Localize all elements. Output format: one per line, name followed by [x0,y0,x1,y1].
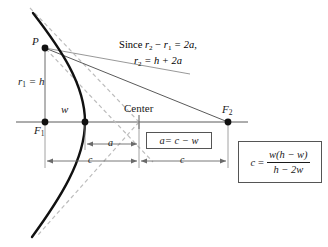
f1-subscript: 1 [41,129,45,138]
label-r1-equals-h: r1 = h [18,76,44,89]
box-a-rhs: = c − w [165,135,199,146]
box-c-lhs: c [250,157,255,168]
fraction-bar [267,162,310,163]
point-marker-f2 [225,119,232,126]
label-focus-f1: F1 [34,125,44,138]
note-line-1: Since r2 − r1 = 2a, [88,38,228,54]
box-c-equals: = [258,157,264,168]
note-relation: Since r2 − r1 = 2a, r2 = h + 2a [88,38,228,69]
note-minus: − [153,39,164,50]
point-marker-vertex [82,119,89,126]
box-c-numerator: w(h − w) [267,149,310,160]
f2-subscript: 2 [229,108,233,117]
label-dim-a: a [108,138,113,148]
label-focus-f2: F2 [222,104,232,117]
label-dim-c-left: c [88,155,92,165]
label-w: w [61,104,68,115]
boxed-equation-c: c=w(h − w)h − 2w [238,141,322,183]
label-center: Center [124,103,153,114]
label-dim-c-right: c [180,155,184,165]
box-c-denominator: h − 2w [271,164,305,175]
note2-rest: = h + 2a [142,55,182,66]
point-marker-p [42,45,49,52]
f1-base: F [34,124,41,136]
label-point-p: P [32,36,39,47]
box-c-fraction: w(h − w)h − 2w [267,149,310,174]
f2-base: F [222,103,229,115]
note-since: Since [119,39,145,50]
note-line-2: r2 = h + 2a [88,54,228,70]
boxed-equation-a: a = c − w [146,132,212,149]
note-eq-2a: = 2a, [171,39,196,50]
hyperbola-geometry-figure: P F1 F2 Center r1 = h w a c c Since r2 −… [0,0,328,247]
asymptote-lower-dashed [37,122,139,236]
r1-rest: = h [26,75,44,87]
